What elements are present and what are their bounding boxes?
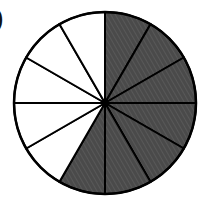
center-dot: [102, 100, 108, 106]
fraction-circle: [0, 0, 207, 198]
